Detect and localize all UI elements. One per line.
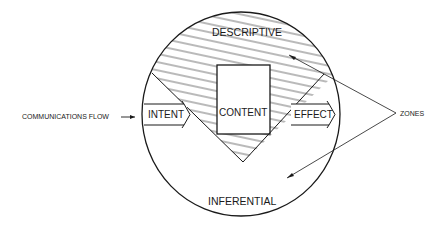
content-box	[217, 65, 270, 134]
descriptive-zone-label: DESCRIPTIVE	[212, 27, 282, 38]
zones-callout-label: ZONES	[400, 110, 424, 117]
effect-label: EFFECT	[294, 110, 333, 120]
communications-flow-label: COMMUNICATIONS FLOW	[22, 113, 109, 120]
content-zone-label: CONTENT	[219, 108, 267, 118]
flow-arrow-icon	[121, 115, 135, 119]
intent-label: INTENT	[148, 110, 184, 120]
inferential-zone-label: INFERENTIAL	[208, 196, 276, 207]
